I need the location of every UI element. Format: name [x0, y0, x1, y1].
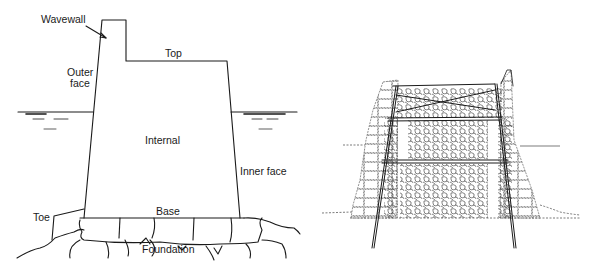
label-inner-face: Inner face — [240, 165, 287, 177]
label-foundation: Foundation — [142, 243, 195, 255]
label-base: Base — [156, 205, 180, 217]
label-internal: Internal — [145, 134, 180, 146]
label-toe: Toe — [33, 211, 50, 223]
masonry-wall-drawing — [310, 0, 606, 271]
label-outer-face-2: face — [70, 77, 90, 89]
breakwater-cross-section-diagram: Wavewall Top Outer face Internal Inner f… — [0, 0, 310, 271]
masonry-wall-illustration — [310, 0, 606, 271]
label-top: Top — [165, 47, 182, 59]
frame-top-beam — [393, 84, 495, 86]
wall-outline — [84, 20, 240, 218]
label-wavewall: Wavewall — [41, 13, 86, 25]
